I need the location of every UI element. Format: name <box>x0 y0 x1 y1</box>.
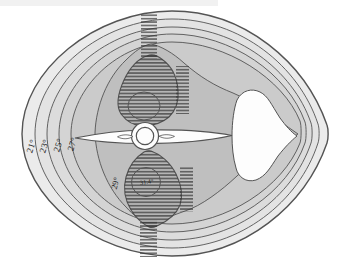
contour-diagram-svg: 21° 23° 25° 27° 29° 31.4° <box>0 0 347 271</box>
ventral-midline-hatch <box>140 220 157 257</box>
vertebral-column-inner <box>136 127 153 144</box>
dorsal-midline-hatch <box>141 13 157 59</box>
isotherm-cross-section-figure: 21° 23° 25° 27° 29° 31.4° <box>0 0 347 271</box>
ventral-hatch-overflow <box>180 166 193 212</box>
right-teardrop-opening <box>159 135 175 139</box>
page-edge-shading <box>0 0 218 6</box>
dorsal-hatch-overflow <box>176 66 189 114</box>
